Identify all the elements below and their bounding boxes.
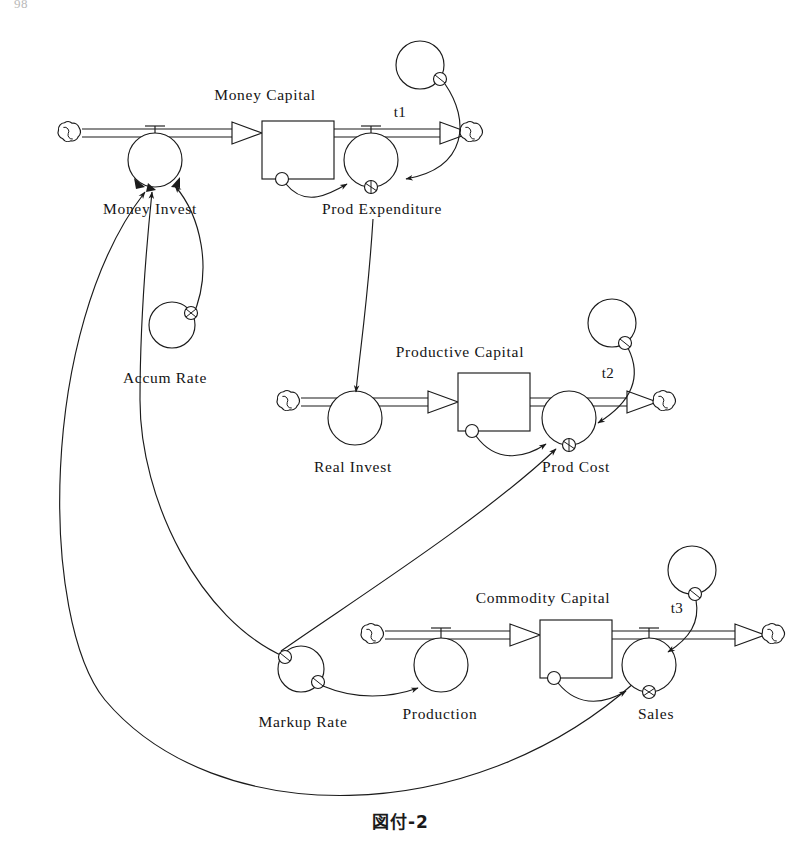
stock-flow-diagram: Money Invest Money Capital Prod Expendit… bbox=[0, 0, 801, 859]
label-production: Production bbox=[402, 705, 477, 722]
aux-accum-rate[interactable] bbox=[149, 302, 198, 348]
link-money-capital-to-prod-expenditure bbox=[286, 184, 347, 197]
label-markup-rate: Markup Rate bbox=[258, 713, 347, 730]
valve-real-invest[interactable] bbox=[328, 391, 382, 445]
label-t3: t3 bbox=[671, 600, 683, 616]
stock-commodity-capital[interactable] bbox=[540, 620, 612, 678]
label-real-invest: Real Invest bbox=[314, 458, 392, 475]
label-accum-rate: Accum Rate bbox=[123, 369, 207, 386]
valve-money-invest[interactable] bbox=[128, 126, 182, 187]
figure-caption: 図付-2 bbox=[0, 808, 801, 833]
valve-prod-expenditure[interactable] bbox=[344, 126, 398, 187]
cloud-source-commodity bbox=[361, 624, 384, 644]
link-sales-to-money-invest bbox=[60, 192, 634, 795]
stock-productive-capital[interactable] bbox=[458, 373, 530, 431]
label-productive-capital: Productive Capital bbox=[396, 343, 524, 360]
link-markup-rate-to-production bbox=[323, 686, 418, 696]
label-money-capital: Money Capital bbox=[214, 86, 316, 103]
label-prod-expenditure: Prod Expenditure bbox=[322, 200, 442, 217]
valve-prod-cost[interactable] bbox=[542, 391, 596, 445]
aux-t1[interactable] bbox=[396, 41, 447, 89]
commodity-capital-row: Production Commodity Capital Sales bbox=[258, 449, 784, 730]
cloud-source-money bbox=[58, 122, 81, 142]
label-sales: Sales bbox=[638, 705, 674, 722]
label-prod-cost: Prod Cost bbox=[542, 458, 610, 475]
money-capital-row: Money Invest Money Capital Prod Expendit… bbox=[58, 41, 483, 217]
cloud-sink-money bbox=[460, 122, 483, 142]
aux-t3[interactable] bbox=[668, 546, 716, 601]
label-money-invest: Money Invest bbox=[103, 200, 197, 217]
port-money-capital-out bbox=[276, 173, 289, 186]
feedback-arc-group bbox=[60, 186, 634, 795]
label-t1: t1 bbox=[394, 104, 406, 120]
valve-production[interactable] bbox=[414, 628, 468, 692]
stock-money-capital[interactable] bbox=[262, 121, 334, 179]
cloud-sink-commodity bbox=[762, 624, 785, 644]
link-prod-expenditure-to-real-invest bbox=[356, 219, 373, 392]
label-commodity-capital: Commodity Capital bbox=[476, 589, 611, 606]
figure-page: 98 bbox=[0, 0, 801, 859]
link-prod-cost-to-markup-rate bbox=[281, 449, 556, 651]
link-markup-rate-to-money-invest bbox=[140, 192, 285, 657]
port-commodity-capital-out bbox=[548, 672, 561, 685]
aux-t2[interactable] bbox=[588, 299, 636, 350]
label-t2: t2 bbox=[602, 365, 614, 381]
flow-commodity-inflow bbox=[385, 624, 540, 646]
link-productive-capital-to-prod-cost bbox=[476, 436, 546, 456]
valve-sales[interactable] bbox=[622, 628, 676, 692]
productive-capital-row: Real Invest Productive Capital Prod Cost bbox=[277, 219, 676, 475]
aux-markup-rate[interactable] bbox=[278, 646, 325, 692]
port-productive-capital-out bbox=[466, 425, 479, 438]
cloud-sink-productive bbox=[653, 391, 676, 411]
cloud-source-productive bbox=[277, 391, 300, 411]
